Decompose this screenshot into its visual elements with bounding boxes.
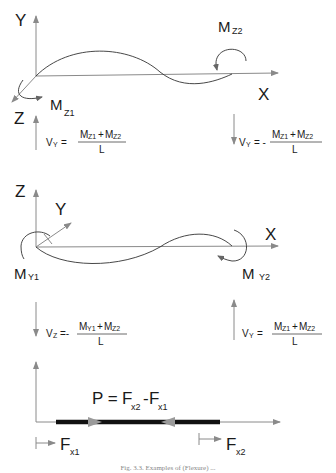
svg-text:+: +	[290, 129, 296, 140]
svg-text:F: F	[60, 435, 70, 454]
moment-y2-arrow-icon	[218, 230, 247, 261]
panel-z-moment: Y X Z M Z1 M Z2 V Y = M Z1 + M Z2 L V Y …	[12, 11, 322, 155]
panel-axial: P = F x2 - F x1 F x1 F x2	[36, 362, 280, 457]
svg-text:x1: x1	[158, 402, 168, 412]
svg-text:V: V	[242, 328, 249, 339]
svg-text:x1: x1	[70, 447, 80, 457]
svg-text:M: M	[218, 18, 231, 35]
x-axis-arrow-2	[36, 246, 278, 247]
x-axis-arrow	[36, 73, 278, 76]
svg-text:-: -	[143, 389, 149, 408]
svg-text:V: V	[46, 137, 53, 148]
svg-text:Z1: Z1	[64, 108, 75, 118]
label-axis-x-2: X	[265, 225, 276, 244]
label-axis-z-2: Z	[15, 182, 25, 201]
label-axis-y-2: Y	[55, 200, 66, 219]
svg-text:=-: =-	[60, 328, 69, 339]
panel-y-moment: Z Y X M Y1 M Y2 V Z =- M Y1 + M Z2 L V Y	[14, 182, 322, 347]
svg-text:Z2: Z2	[113, 133, 121, 140]
equation-axial-p: P = F x2 - F x1	[92, 389, 168, 412]
svg-text:Z1: Z1	[280, 133, 288, 140]
svg-text:+: +	[292, 321, 298, 332]
label-moment-z2: M Z2	[218, 18, 243, 36]
svg-text:Z1: Z1	[88, 133, 96, 140]
svg-text:L: L	[98, 336, 104, 347]
svg-text:M: M	[242, 265, 255, 282]
moment-z2-arrow-icon	[216, 49, 246, 70]
equation-vy-right-2: V Y = M Z1 + M Z2 L	[242, 321, 322, 347]
svg-text:F: F	[226, 435, 236, 454]
svg-text:Z2: Z2	[305, 133, 313, 140]
svg-text:Y: Y	[246, 141, 251, 148]
deflected-beam-curve	[36, 51, 232, 84]
svg-text:=: =	[257, 328, 263, 339]
svg-text:=: =	[61, 137, 67, 148]
svg-text:L: L	[292, 336, 298, 347]
svg-text:x2: x2	[131, 402, 141, 412]
svg-text:= -: = -	[254, 137, 266, 148]
svg-text:Z: Z	[53, 332, 58, 339]
svg-text:Z2: Z2	[232, 26, 243, 36]
svg-text:Z1: Z1	[282, 325, 290, 332]
svg-text:x2: x2	[236, 447, 246, 457]
equation-vy-left: V Y = M Z1 + M Z2 L	[46, 129, 126, 155]
label-moment-y1: M Y1	[14, 265, 39, 282]
svg-text:L: L	[99, 144, 105, 155]
svg-text:L: L	[292, 144, 298, 155]
beam-force-arrow-right-icon	[88, 417, 102, 427]
label-moment-y2: M Y2	[242, 265, 270, 282]
svg-text:M: M	[14, 265, 27, 282]
label-force-fx2: F x2	[226, 435, 246, 457]
svg-text:+: +	[98, 129, 104, 140]
equation-vz-left: V Z =- M Y1 + M Z2 L	[46, 321, 127, 347]
svg-text:P =: P =	[92, 389, 118, 408]
svg-text:Z2: Z2	[112, 325, 120, 332]
svg-text:Y1: Y1	[28, 272, 39, 282]
svg-text:V: V	[46, 328, 53, 339]
svg-text:M: M	[50, 96, 63, 113]
svg-text:V: V	[239, 137, 246, 148]
svg-text:Z2: Z2	[307, 325, 315, 332]
label-axis-x: X	[258, 85, 269, 104]
label-axis-z: Z	[14, 109, 24, 128]
figure-caption: Fig. 3.3. Examples of (Flexure) ...	[120, 464, 215, 472]
beam-end-forces-diagram: Y X Z M Z1 M Z2 V Y = M Z1 + M Z2 L V Y …	[0, 0, 336, 473]
label-force-fx1: F x1	[60, 435, 80, 457]
beam-force-arrow-left-icon	[161, 417, 175, 427]
svg-text:Y1: Y1	[87, 325, 96, 332]
svg-text:Y: Y	[249, 332, 254, 339]
label-axis-y: Y	[15, 11, 26, 30]
svg-text:Y2: Y2	[259, 272, 270, 282]
y-axis-arrow-2	[36, 223, 71, 247]
svg-text:+: +	[97, 321, 103, 332]
deflected-beam-curve-2	[36, 234, 232, 263]
equation-vy-right: V Y = - M Z1 + M Z2 L	[239, 129, 322, 155]
svg-text:Y: Y	[53, 141, 58, 148]
label-moment-z1: M Z1	[50, 96, 75, 118]
